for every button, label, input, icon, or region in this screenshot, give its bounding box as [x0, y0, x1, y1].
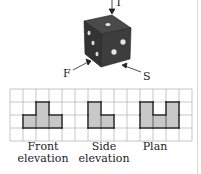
side-elevation-shape [88, 102, 114, 128]
plan-caption-line1: Plan [135, 141, 175, 153]
front-elevation-caption: Front elevation [17, 141, 69, 165]
front-elevation-shape [23, 102, 62, 128]
front-view-label: F [63, 68, 71, 79]
side-elevation-caption-line2: elevation [78, 153, 130, 165]
die-icon [84, 15, 131, 67]
front-elevation-caption-line2: elevation [17, 153, 69, 165]
side-elevation-caption: Side elevation [78, 141, 130, 165]
top-view-label: T [115, 0, 122, 8]
front-view-arrow [73, 59, 91, 70]
side-view-arrow [122, 63, 141, 72]
side-view-label: S [143, 71, 151, 82]
plan-shape [140, 102, 179, 128]
elevation-shapes [23, 102, 179, 128]
plan-caption: Plan [135, 141, 175, 153]
